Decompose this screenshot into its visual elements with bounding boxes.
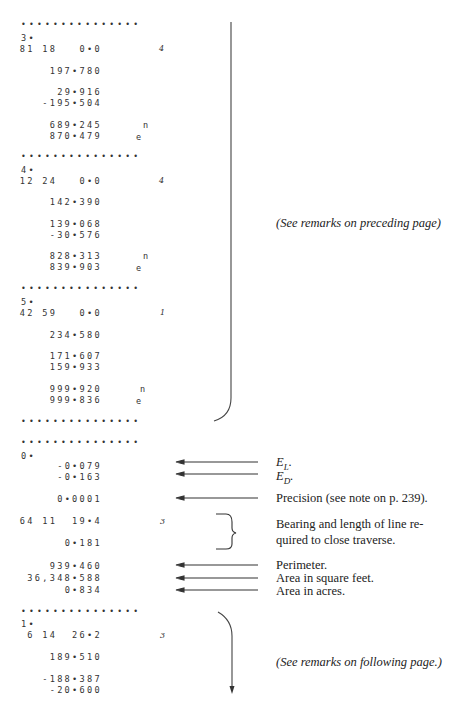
north-coordinate: 689•245: [0, 120, 102, 130]
separator: •••••••••••••••: [21, 152, 141, 161]
separator: •••••••••••••••: [21, 438, 141, 447]
length-value: 142•390: [0, 197, 102, 207]
latitude-value: 171•607: [0, 351, 102, 361]
length-value: 197•780: [0, 66, 102, 76]
latitude-value: -188•387: [0, 674, 102, 684]
quadrant-mark: 3: [160, 517, 165, 526]
following-page-remark: (See remarks on following page.): [276, 655, 442, 670]
latitude-value: 29•916: [0, 87, 102, 97]
preceding-page-remark: (See remarks on preceding page): [276, 216, 441, 231]
quadrant-mark: 4: [159, 44, 164, 53]
east-coordinate: 839•903: [0, 262, 102, 272]
east-tag: e: [136, 132, 141, 142]
latitude-value: 139•068: [0, 219, 102, 229]
departure-value: -30•576: [0, 230, 102, 240]
departure-value: -20•600: [0, 685, 102, 695]
east-tag: e: [136, 396, 141, 406]
departure-value: -195•504: [0, 98, 102, 108]
east-tag: e: [136, 263, 141, 273]
separator: •••••••••••••••: [21, 284, 141, 293]
station-label: 4•: [21, 165, 36, 175]
departure-value: 159•933: [0, 362, 102, 372]
area-acres-note: Area in acres.: [276, 584, 345, 599]
area-sqft-value: 36,348•588: [0, 573, 102, 583]
north-coordinate: 999•920: [0, 384, 102, 394]
ed-label: ED.: [276, 469, 293, 486]
station-label: 5•: [21, 297, 36, 307]
precision-note: Precision (see note on p. 239).: [276, 491, 428, 506]
closing-bearing-value: 64 11 19•4: [0, 516, 102, 526]
north-coordinate: 828•313: [0, 251, 102, 261]
north-tag: n: [143, 251, 148, 261]
quadrant-mark: 4: [159, 176, 164, 185]
quadrant-mark: 1: [160, 308, 165, 317]
separator: •••••••••••••••: [21, 417, 141, 426]
north-tag: n: [140, 384, 145, 394]
station-label: 1•: [21, 619, 36, 629]
bearing-value: 6 14 26•2: [0, 630, 102, 640]
error-departure-value: -0•163: [0, 472, 102, 482]
east-coordinate: 870•479: [0, 131, 102, 141]
closure-label: 0•: [21, 451, 36, 461]
bearing-value: 81 18 0•0: [0, 44, 102, 54]
error-latitude-value: -0•079: [0, 461, 102, 471]
north-tag: n: [143, 120, 148, 130]
area-acres-value: 0•834: [0, 585, 102, 595]
perimeter-value: 939•460: [0, 561, 102, 571]
east-coordinate: 999•836: [0, 395, 102, 405]
separator: •••••••••••••••: [21, 20, 141, 29]
separator: •••••••••••••••: [21, 607, 141, 616]
bearing-value: 12 24 0•0: [0, 176, 102, 186]
closing-length-value: 0•181: [0, 538, 102, 548]
bearing-note: Bearing and length of line re-quired to …: [276, 516, 424, 548]
bearing-value: 42 59 0•0: [0, 308, 102, 318]
precision-value: 0•0001: [0, 494, 102, 504]
length-value: 234•580: [0, 330, 102, 340]
station-label: 3•: [21, 33, 36, 43]
length-value: 189•510: [0, 652, 102, 662]
quadrant-mark: 3: [160, 631, 165, 640]
